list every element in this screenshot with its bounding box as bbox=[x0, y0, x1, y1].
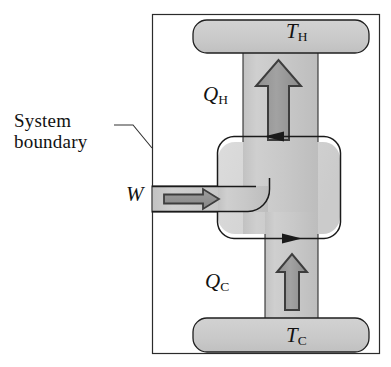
heat-in-symbol: Q bbox=[205, 269, 220, 293]
device-lower-column bbox=[265, 212, 318, 234]
hot-reservoir-subscript: H bbox=[298, 29, 308, 44]
leader-line-icon bbox=[114, 125, 152, 148]
cold-reservoir-label: TC bbox=[286, 324, 307, 348]
work-input-label: W bbox=[126, 183, 144, 207]
system-boundary-label-line2: boundary bbox=[14, 131, 87, 152]
heat-out-subscript: H bbox=[218, 92, 228, 107]
system-boundary-label: System boundary bbox=[14, 110, 87, 153]
diagram-canvas: System boundary TH TC QH QC W bbox=[0, 0, 391, 367]
heat-out-label: QH bbox=[203, 83, 228, 107]
heat-in-label: QC bbox=[205, 270, 229, 294]
heat-out-symbol: Q bbox=[203, 82, 218, 106]
work-input-symbol: W bbox=[126, 182, 144, 206]
heat-pump-cycle-diagram bbox=[0, 0, 391, 367]
cold-reservoir-bar bbox=[193, 318, 369, 352]
hot-reservoir-label: TH bbox=[286, 20, 307, 44]
hot-reservoir-bar bbox=[193, 20, 369, 53]
cold-reservoir-symbol: T bbox=[286, 323, 298, 347]
hot-reservoir-symbol: T bbox=[286, 19, 298, 43]
system-boundary-label-line1: System bbox=[14, 110, 71, 131]
heat-in-subscript: C bbox=[220, 279, 229, 294]
cold-reservoir-subscript: C bbox=[298, 333, 307, 348]
